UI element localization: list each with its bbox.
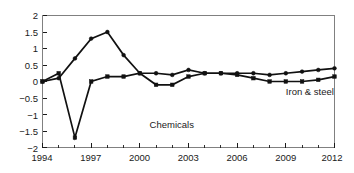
data-point <box>203 71 207 75</box>
data-point <box>138 71 142 75</box>
data-point <box>268 80 272 84</box>
y-tick-label: 1 <box>33 43 38 54</box>
x-tick-label: 1997 <box>80 152 101 163</box>
y-axis-tick-labels: 2 1.5 1 0.5 0 −0.5 −1 −1.5 −2 <box>19 10 38 154</box>
data-point <box>89 37 93 41</box>
data-point <box>219 71 223 75</box>
y-tick-label: −1.5 <box>19 126 38 137</box>
data-point <box>300 80 304 84</box>
data-point <box>284 71 288 75</box>
data-point <box>170 73 174 77</box>
y-tick-label: 0.5 <box>25 60 38 71</box>
line-chart: 2 1.5 1 0.5 0 −0.5 −1 −1.5 −2 1994 1997 … <box>0 0 354 173</box>
data-point <box>333 75 337 79</box>
x-tick-label: 1994 <box>31 152 52 163</box>
data-point <box>252 76 256 80</box>
data-point <box>300 70 304 74</box>
data-point <box>284 80 288 84</box>
x-tick-label: 2009 <box>275 152 296 163</box>
x-axis-tick-labels: 1994 1997 2000 2003 2006 2009 2012 <box>31 152 342 163</box>
data-point <box>170 83 174 87</box>
data-point <box>154 71 158 75</box>
data-point <box>251 71 255 75</box>
data-point <box>187 75 191 79</box>
x-tick-label: 2012 <box>321 152 342 163</box>
x-tick-label: 2003 <box>178 152 199 163</box>
series-line <box>43 32 335 82</box>
series-annotations: Chemicals Iron & steel <box>150 86 334 130</box>
y-tick-label: −1 <box>27 110 38 121</box>
y-tick-label: −0.5 <box>19 93 38 104</box>
data-point <box>333 66 337 70</box>
data-point <box>89 80 93 84</box>
data-point <box>316 78 320 82</box>
data-point <box>122 75 126 79</box>
y-tick-label: 0 <box>33 76 38 87</box>
data-point <box>73 57 77 61</box>
data-point <box>154 83 158 87</box>
series-label-chemicals: Chemicals <box>150 119 195 130</box>
data-point <box>57 71 61 75</box>
series-label-iron-steel: Iron & steel <box>286 86 334 97</box>
data-point <box>187 68 191 72</box>
data-point <box>41 80 45 84</box>
data-point <box>73 136 77 140</box>
data-point <box>316 68 320 72</box>
data-point <box>57 76 61 80</box>
x-tick-label: 2000 <box>129 152 150 163</box>
data-point <box>235 71 239 75</box>
data-point <box>122 53 126 57</box>
x-tick-label: 2006 <box>226 152 247 163</box>
chart-canvas: 2 1.5 1 0.5 0 −0.5 −1 −1.5 −2 1994 1997 … <box>0 0 354 173</box>
y-tick-label: 2 <box>33 10 38 21</box>
data-point <box>268 73 272 77</box>
data-point <box>106 75 110 79</box>
data-point <box>105 30 109 34</box>
x-axis-ticks <box>43 143 335 148</box>
y-tick-label: 1.5 <box>25 27 38 38</box>
